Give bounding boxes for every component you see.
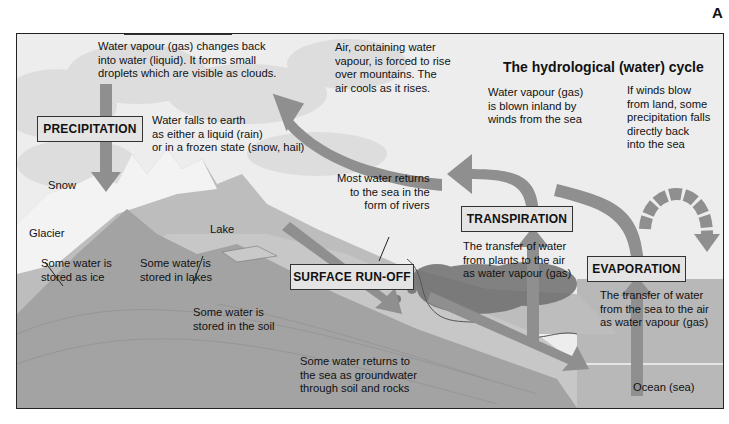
lake-storage-annotation: Some water is stored in lakes	[140, 257, 212, 284]
soil-storage-annotation: Some water is stored in the soil	[193, 306, 274, 333]
wind-inland-annotation: Water vapour (gas) is blown inland by wi…	[488, 86, 583, 127]
surface-runoff-label-box: SURFACE RUN-OFF	[290, 264, 414, 290]
precipitation-description: Water falls to earth as either a liquid …	[152, 114, 304, 155]
air-rises-annotation: Air, containing water vapour, is forced …	[335, 41, 451, 95]
evaporation-label-box: EVAPORATION	[587, 256, 686, 282]
ocean-label: Ocean (sea)	[633, 381, 695, 395]
precipitation-label-box: PRECIPITATION	[37, 116, 143, 142]
glacier-label: Glacier	[29, 227, 64, 241]
condensation-description: Water vapour (gas) changes back into wat…	[98, 40, 276, 81]
surface-runoff-label: SURFACE RUN-OFF	[293, 270, 411, 284]
winds-from-land-annotation: If winds blow from land, some precipitat…	[627, 84, 710, 152]
diagram-frame: The hydrological (water) cycle CONDENSAT…	[16, 33, 724, 409]
lake-label: Lake	[210, 223, 234, 237]
snow-label: Snow	[48, 179, 76, 193]
figure-corner-label: A	[712, 4, 723, 21]
condensation-label-box: CONDENSATION	[124, 33, 232, 35]
transpiration-label: TRANSPIRATION	[467, 212, 567, 226]
precipitation-label: PRECIPITATION	[43, 122, 137, 136]
evaporation-label: EVAPORATION	[592, 262, 680, 276]
groundwater-annotation: Some water returns to the sea as groundw…	[300, 355, 417, 396]
ice-storage-annotation: Some water is stored as ice	[41, 257, 112, 284]
diagram-title: The hydrological (water) cycle	[503, 59, 704, 75]
transpiration-label-box: TRANSPIRATION	[461, 206, 573, 232]
rivers-annotation: Most water returns to the sea in the for…	[337, 172, 430, 213]
transpiration-description: The transfer of water from plants to the…	[463, 240, 571, 281]
evaporation-description: The transfer of water from the sea to th…	[600, 289, 709, 330]
